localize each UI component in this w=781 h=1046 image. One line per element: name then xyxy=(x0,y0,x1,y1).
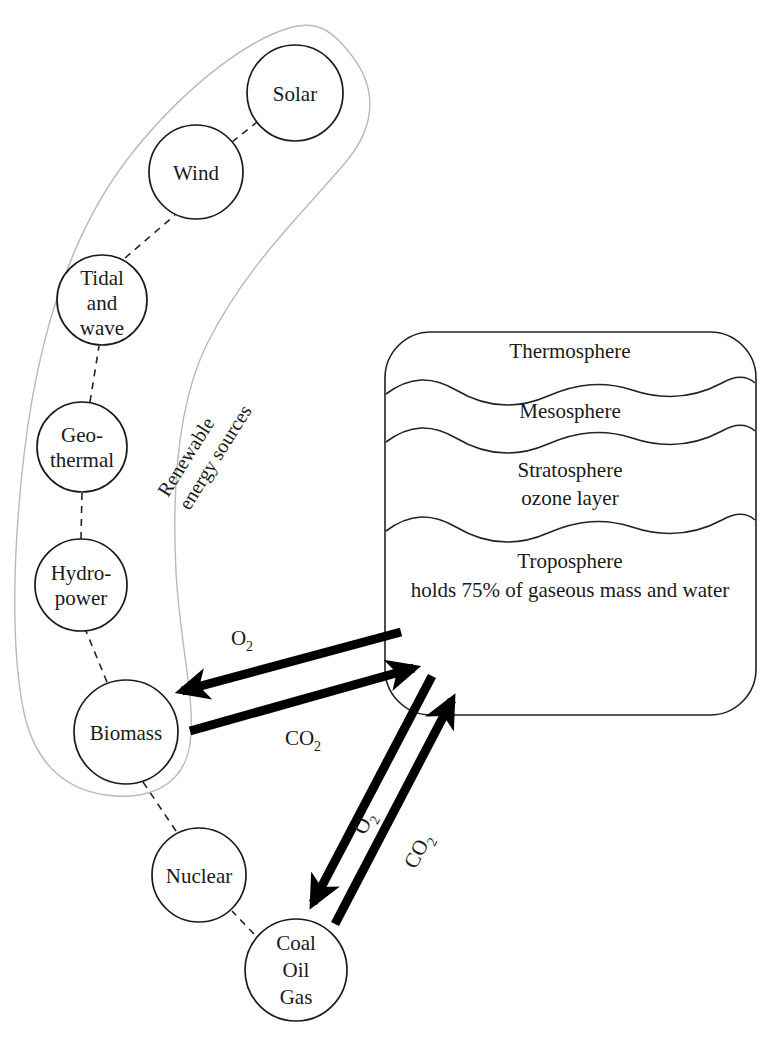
arrow-co2-to-atmosphere-fossil xyxy=(335,700,452,924)
flow-label-co2-fossil-group: CO2 xyxy=(399,829,441,874)
node-tidal-label-line2: and xyxy=(87,291,118,315)
atmosphere-layer-stratosphere: Stratosphere xyxy=(518,458,623,482)
flow-label-co2-fossil: CO2 xyxy=(399,829,441,874)
node-tidal-label-line3: wave xyxy=(80,316,124,340)
atmosphere-layer-ozone: ozone layer xyxy=(521,486,618,510)
link-fossil-nuclear xyxy=(232,911,254,934)
node-fossil-label-line3: Gas xyxy=(280,985,313,1009)
node-geothermal-label-line2: thermal xyxy=(50,448,114,472)
link-nuclear-biomass xyxy=(143,782,176,831)
node-tidal-and-wave[interactable]: Tidal and wave xyxy=(57,255,147,345)
node-fossil-fuels[interactable]: Coal Oil Gas xyxy=(245,919,347,1021)
atmosphere-layer-thermosphere: Thermosphere xyxy=(509,339,630,363)
node-wind-label: Wind xyxy=(173,161,219,185)
atmosphere-box-outline xyxy=(385,332,756,715)
node-biomass[interactable]: Biomass xyxy=(74,680,178,784)
node-fossil-label-line1: Coal xyxy=(276,931,316,955)
atmosphere-layer-troposphere: Troposphere xyxy=(517,549,622,573)
atmosphere-layer-mesosphere: Mesosphere xyxy=(519,399,620,423)
atmosphere-box: Thermosphere Mesosphere Stratosphere ozo… xyxy=(385,332,756,715)
link-biomass-hydro xyxy=(86,631,107,682)
energy-atmosphere-diagram: Renewable energy sources Thermosphere Me… xyxy=(0,0,781,1046)
link-tidal-wind xyxy=(125,215,175,258)
node-hydropower-label-line1: Hydro- xyxy=(51,561,112,585)
node-geothermal-label-line1: Geo- xyxy=(61,423,103,447)
flow-label-co2-biomass: CO2 xyxy=(285,726,321,754)
node-wind[interactable]: Wind xyxy=(149,125,243,219)
node-geothermal-circle[interactable] xyxy=(37,402,127,492)
node-biomass-label: Biomass xyxy=(90,721,162,745)
atmosphere-layer-troposphere-detail: holds 75% of gaseous mass and water xyxy=(411,578,729,602)
flow-label-o2-biomass: O2 xyxy=(231,626,253,654)
node-hydropower[interactable]: Hydro- power xyxy=(35,539,127,631)
node-hydropower-label-line2: power xyxy=(55,586,107,610)
node-tidal-label-line1: Tidal xyxy=(80,266,124,290)
node-fossil-label-line2: Oil xyxy=(283,958,310,982)
node-geothermal[interactable]: Geo- thermal xyxy=(37,402,127,492)
node-solar[interactable]: Solar xyxy=(247,45,343,141)
diagram-canvas: Renewable energy sources Thermosphere Me… xyxy=(0,0,781,1046)
renewable-group-label: Renewable energy sources xyxy=(153,387,257,514)
node-nuclear[interactable]: Nuclear xyxy=(152,828,246,922)
node-nuclear-label: Nuclear xyxy=(166,864,232,888)
link-geothermal-tidal xyxy=(90,346,99,402)
link-hydro-geothermal xyxy=(81,492,82,539)
node-hydropower-circle[interactable] xyxy=(35,539,127,631)
node-link-group xyxy=(81,122,257,934)
link-wind-solar xyxy=(232,122,257,142)
node-solar-label: Solar xyxy=(273,82,317,106)
